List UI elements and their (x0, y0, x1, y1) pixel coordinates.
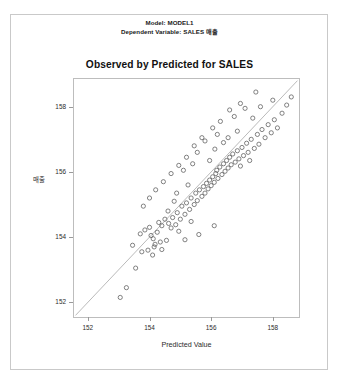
scatter-point (232, 114, 236, 118)
scatter-point (134, 266, 138, 270)
scatter-point (229, 163, 233, 167)
scatter-point (218, 119, 222, 123)
scatter-points-group (118, 90, 293, 300)
scatter-point (195, 150, 199, 154)
x-tick-mark (273, 317, 274, 321)
scatter-point (216, 176, 220, 180)
scatter-point (263, 136, 267, 140)
scatter-point (266, 123, 270, 127)
scatter-point (249, 137, 253, 141)
scatter-point (158, 240, 162, 244)
x-tick-label: 152 (76, 324, 100, 331)
scatter-point (231, 152, 235, 156)
scatter-point (177, 163, 181, 167)
x-tick-label: 156 (199, 324, 223, 331)
scatter-point (130, 243, 134, 247)
scatter-point (118, 295, 122, 299)
scatter-point (186, 183, 190, 187)
scatter-point (143, 228, 147, 232)
scatter-point (175, 211, 179, 215)
scatter-point (272, 118, 276, 122)
x-tick-mark (88, 317, 89, 321)
y-tick-label: 152 (42, 298, 66, 305)
y-axis-title: 매출 (33, 176, 45, 184)
scatter-point (258, 105, 262, 109)
scatter-point (147, 225, 151, 229)
scatter-point (269, 131, 273, 135)
scatter-point (203, 191, 207, 195)
scatter-point (169, 171, 173, 175)
scatter-point (208, 158, 212, 162)
scatter-point (124, 286, 128, 290)
x-tick-mark (211, 317, 212, 321)
scatter-plot-svg (74, 79, 299, 317)
scatter-point (228, 108, 232, 112)
scatter-point (189, 196, 193, 200)
scatter-point (151, 237, 155, 241)
scatter-point (271, 98, 275, 102)
scatter-point (181, 168, 185, 172)
x-tick-label: 158 (261, 324, 285, 331)
scatter-point (146, 248, 150, 252)
y-tick-label: 156 (42, 168, 66, 175)
scatter-point (240, 145, 244, 149)
scatter-point (172, 199, 176, 203)
scatter-point (289, 95, 293, 99)
scatter-point (177, 229, 181, 233)
scatter-point (169, 226, 173, 230)
scatter-point (152, 245, 156, 249)
scatter-point (215, 132, 219, 136)
chart-title: Observed by Predicted for SALES (0, 59, 339, 70)
scatter-point (141, 204, 145, 208)
y-tick-mark (69, 302, 73, 303)
scatter-point (183, 212, 187, 216)
scatter-point (160, 247, 164, 251)
scatter-point (285, 103, 289, 107)
y-tick-label: 158 (42, 103, 66, 110)
scatter-point (194, 191, 198, 195)
scatter-point (153, 242, 157, 246)
scatter-point (251, 116, 255, 120)
scatter-point (243, 106, 247, 110)
scatter-point (275, 126, 279, 130)
scatter-point (252, 146, 256, 150)
scatter-point (155, 230, 159, 234)
scatter-point (161, 180, 165, 184)
scatter-point (238, 164, 242, 168)
model-name-line: Model: MODEL1 (0, 18, 339, 27)
scatter-point (147, 196, 151, 200)
plot-area (73, 78, 300, 318)
y-tick-mark (69, 172, 73, 173)
scatter-point (180, 204, 184, 208)
y-tick-mark (69, 237, 73, 238)
scatter-point (248, 158, 252, 162)
identity-reference-line (76, 81, 298, 316)
scatter-point (260, 127, 264, 131)
model-header: Model: MODEL1 Dependent Variable: SALES … (0, 18, 339, 36)
scatter-point (211, 126, 215, 130)
x-tick-mark (150, 317, 151, 321)
scatter-point (197, 188, 201, 192)
scatter-point (184, 201, 188, 205)
scatter-point (178, 217, 182, 221)
scatter-point (164, 238, 168, 242)
scatter-point (175, 191, 179, 195)
x-tick-label: 154 (138, 324, 162, 331)
y-tick-mark (69, 107, 73, 108)
scatter-point (195, 199, 199, 203)
scatter-point (167, 221, 171, 225)
scatter-point (246, 150, 250, 154)
scatter-point (203, 139, 207, 143)
scatter-point (245, 141, 249, 145)
scatter-point (254, 90, 258, 94)
scatter-point (233, 160, 237, 164)
scatter-point (212, 180, 216, 184)
scatter-point (237, 157, 241, 161)
scatter-point (235, 129, 239, 133)
dependent-variable-line: Dependent Variable: SALES 매출 (0, 27, 339, 36)
scatter-point (257, 142, 261, 146)
scatter-point (189, 219, 193, 223)
scatter-point (192, 144, 196, 148)
scatter-point (238, 101, 242, 105)
y-tick-label: 154 (42, 233, 66, 240)
